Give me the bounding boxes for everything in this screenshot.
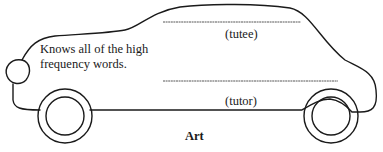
front-wheel-inner [46,97,84,135]
headlight [6,60,29,84]
tutee-label: (tutee) [225,27,258,42]
rear-wheel-inner [312,97,350,135]
skill-description: Knows all of the high frequency words. [40,42,148,72]
description-line-2: frequency words. [40,57,148,72]
description-line-1: Knows all of the high [40,42,148,57]
caption: Art [185,129,204,144]
tutor-label: (tutor) [225,94,257,109]
